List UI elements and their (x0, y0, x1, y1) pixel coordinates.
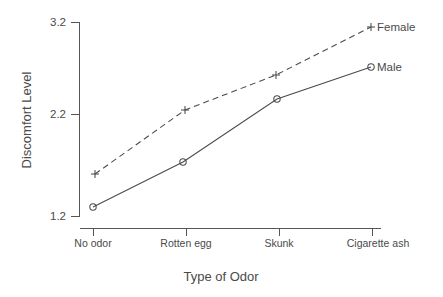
series-marker-female-rotten-egg (181, 106, 189, 114)
chart-page: 3.2 2.2 1.2 No odor Rotten egg Skunk Cig… (0, 0, 443, 297)
y-axis-title: Discomfort Level (19, 71, 34, 168)
x-category-label-cigarette-ash: Cigarette ash (347, 237, 410, 249)
series-line-male (93, 67, 371, 207)
series-line-female (95, 27, 371, 174)
line-chart: 3.2 2.2 1.2 No odor Rotten egg Skunk Cig… (0, 0, 443, 297)
series-marker-female-no-odor (91, 170, 99, 178)
legend-label-female: Female (377, 21, 415, 33)
x-category-label-rotten-egg: Rotten egg (160, 237, 212, 249)
x-category-label-no-odor: No odor (74, 237, 112, 249)
y-tick-label-1.2: 1.2 (50, 210, 66, 222)
x-category-label-skunk: Skunk (264, 237, 294, 249)
series-marker-female-cigarette-ash (367, 23, 375, 31)
legend-label-male: Male (377, 61, 402, 73)
x-axis-title: Type of Odor (183, 269, 259, 284)
series-marker-female-skunk (272, 71, 280, 79)
y-tick-label-3.2: 3.2 (50, 16, 66, 28)
y-tick-label-2.2: 2.2 (50, 108, 66, 120)
